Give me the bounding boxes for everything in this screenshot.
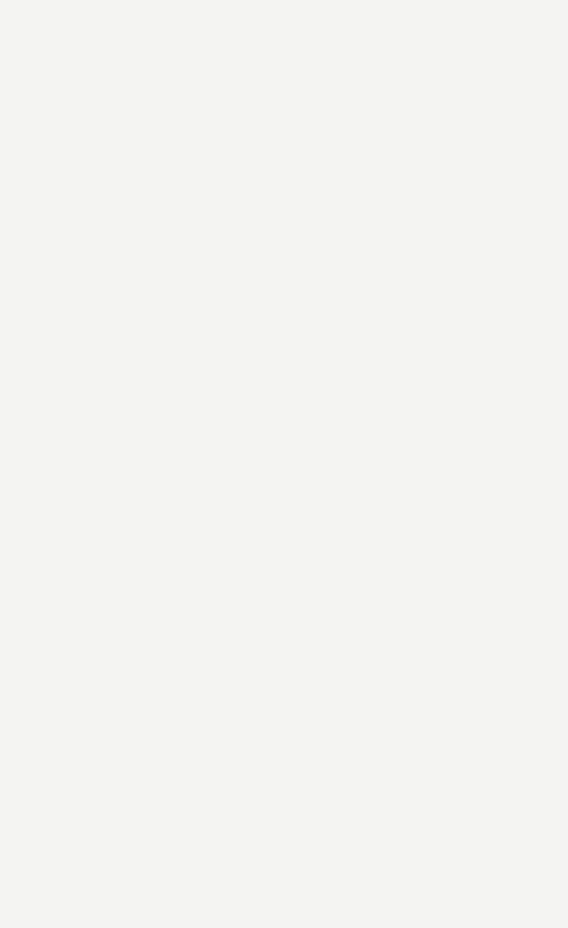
concept-map-page	[0, 0, 568, 928]
